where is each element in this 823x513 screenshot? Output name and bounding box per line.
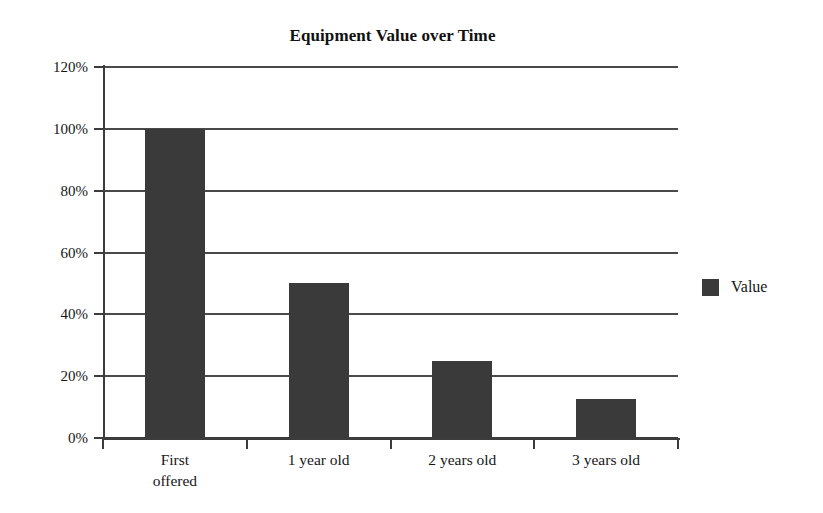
chart-title: Equipment Value over Time [0, 26, 785, 46]
x-axis-category-label-line: offered [103, 470, 247, 491]
y-axis-tick-label: 0% [28, 430, 88, 447]
x-axis-category-label-line: 1 year old [247, 449, 391, 470]
bar [145, 129, 205, 438]
y-axis-tick-label: 120% [28, 59, 88, 76]
x-axis-tick [102, 438, 104, 449]
y-axis-tick-label: 80% [28, 182, 88, 199]
y-axis-tick-label: 20% [28, 368, 88, 385]
bar [289, 283, 349, 438]
x-axis-tick [533, 438, 535, 449]
x-axis-category-label-line: First [103, 449, 247, 470]
x-axis-tick [246, 438, 248, 449]
bar [576, 399, 636, 438]
y-axis-tick-label: 40% [28, 306, 88, 323]
x-axis-category-label-line: 3 years old [534, 449, 678, 470]
x-axis-category-label: Firstoffered [103, 449, 247, 491]
legend: Value [702, 278, 767, 296]
x-axis-line [103, 438, 680, 440]
x-axis-category-label-line: 2 years old [391, 449, 535, 470]
legend-label-value: Value [731, 278, 767, 296]
x-axis-category-label: 3 years old [534, 449, 678, 470]
legend-swatch-value [702, 279, 719, 296]
y-axis-tick-labels: 0%20%40%60%80%100%120% [22, 0, 88, 513]
x-axis-category-label: 1 year old [247, 449, 391, 470]
y-axis-tick-label: 100% [28, 120, 88, 137]
x-axis-tick [390, 438, 392, 449]
x-axis-tick [677, 438, 679, 449]
bar [432, 361, 492, 438]
plot-area [103, 67, 678, 438]
x-axis-category-label: 2 years old [391, 449, 535, 470]
bar-chart: Equipment Value over Time 0%20%40%60%80%… [0, 0, 823, 513]
y-axis-tick-label: 60% [28, 244, 88, 261]
